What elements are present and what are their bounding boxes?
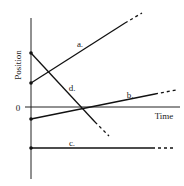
line-b-extension	[155, 90, 176, 94]
x-axis-label: Time	[155, 111, 174, 121]
y-axis-label: Position	[13, 50, 23, 80]
origin-label: 0	[16, 103, 21, 113]
line-a-start-point	[29, 81, 33, 85]
line-b-label: b.	[127, 90, 134, 100]
line-d-start-point	[29, 51, 33, 55]
line-d-label: d.	[69, 83, 76, 93]
line-d	[31, 53, 95, 122]
line-a-label: a.	[77, 39, 83, 49]
line-c-label: c.	[69, 138, 75, 148]
line-a	[31, 23, 125, 83]
line-d-extension	[95, 122, 109, 136]
position-time-diagram: Position Time 0 a. b. c. d.	[0, 0, 184, 186]
line-b-start-point	[29, 117, 33, 121]
line-c-start-point	[29, 146, 33, 150]
line-a-extension	[125, 13, 142, 23]
